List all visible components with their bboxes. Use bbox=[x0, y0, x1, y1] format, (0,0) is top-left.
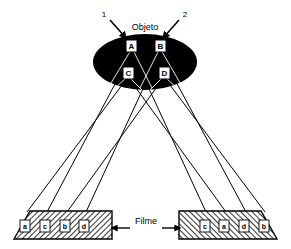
object-point-C: C bbox=[123, 67, 134, 79]
film-right-spot-d-label: d bbox=[242, 223, 246, 230]
ray-D-to-right-film bbox=[164, 77, 265, 212]
radiography-projection-diagram: A B C D Objeto 1 2 a c bbox=[0, 0, 291, 249]
film-right-spot-b-label: b bbox=[262, 223, 266, 230]
film-left-spot-b-label: b bbox=[63, 223, 67, 230]
film-right-spot-a-label: a bbox=[222, 223, 226, 230]
source-2-label: 2 bbox=[183, 10, 188, 19]
film-left-spot-b: b bbox=[60, 220, 70, 232]
film-left-spot-a: a bbox=[20, 220, 30, 232]
film-right-spot-d: d bbox=[239, 220, 249, 232]
film-left-spot-a-label: a bbox=[23, 223, 27, 230]
film-right-spot-c-label: c bbox=[203, 223, 207, 230]
source-1-label: 1 bbox=[102, 10, 107, 19]
object-point-B-label: B bbox=[158, 42, 164, 51]
object-point-A: A bbox=[126, 40, 137, 52]
object-point-C-label: C bbox=[126, 69, 132, 78]
film-left-spot-d-label: d bbox=[82, 223, 86, 230]
object-point-A-label: A bbox=[129, 42, 135, 51]
ray-C-to-right-film bbox=[128, 77, 226, 212]
film-left-spot-d: d bbox=[79, 220, 89, 232]
source-2-arrow-icon bbox=[163, 20, 179, 38]
object-point-B: B bbox=[155, 40, 166, 52]
object-ellipse bbox=[93, 34, 197, 90]
source-1-arrow-icon bbox=[110, 20, 126, 38]
object-caption: Objeto bbox=[132, 22, 159, 32]
film-left-spot-c: c bbox=[40, 220, 50, 232]
film-left-spot-c-label: c bbox=[43, 223, 47, 230]
film-right-spot-a: a bbox=[219, 220, 229, 232]
object-point-D-label: D bbox=[162, 69, 168, 78]
film-right-spot-c: c bbox=[200, 220, 210, 232]
film-caption-label: Filme bbox=[135, 216, 157, 226]
ray-D-to-left-film bbox=[67, 77, 164, 212]
film-right-spot-b: b bbox=[259, 220, 269, 232]
object-point-D: D bbox=[159, 67, 170, 79]
ray-C-to-left-film bbox=[27, 77, 128, 212]
